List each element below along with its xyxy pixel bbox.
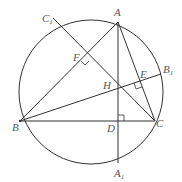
diagram-canvas: A B C D E F H A1 B1 C1 — [0, 0, 182, 182]
label-h: H — [102, 79, 112, 91]
side-ac — [118, 22, 155, 121]
altitude-b-b1 — [20, 74, 161, 121]
geometry-diagram: A B C D E F H A1 B1 C1 — [0, 0, 182, 182]
label-a: A — [113, 6, 121, 18]
label-a1: A1 — [113, 167, 124, 181]
circumcircle — [19, 20, 163, 164]
side-ab — [20, 22, 118, 121]
right-angle-mark-f — [81, 61, 89, 65]
label-b: B — [12, 121, 19, 133]
label-d: D — [106, 122, 115, 134]
label-f: F — [72, 51, 80, 63]
vertex-b-dot — [19, 120, 21, 122]
label-e: E — [139, 68, 147, 80]
label-c1: C1 — [42, 12, 53, 26]
right-angle-mark-d — [118, 115, 124, 121]
label-b1: B1 — [163, 63, 173, 77]
label-c: C — [156, 117, 164, 129]
